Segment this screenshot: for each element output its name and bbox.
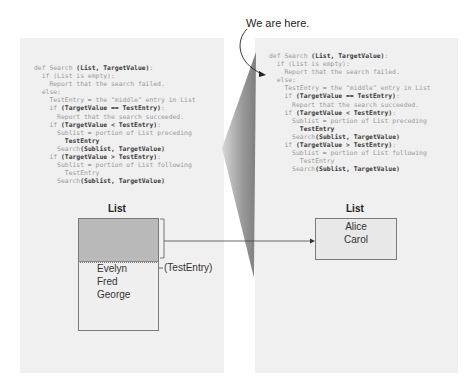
zoom-wedge [222, 52, 256, 278]
left-list-title: List [108, 203, 126, 214]
right-list-items: Alice Carol [316, 220, 396, 246]
bracket [160, 219, 164, 258]
test-entry-label: (TestEntry) [164, 262, 212, 273]
searched-region [79, 219, 158, 262]
list-item: Fred [97, 275, 130, 288]
list-item: George [97, 288, 130, 301]
right-list-title: List [346, 203, 364, 214]
list-item: Carol [316, 233, 396, 246]
list-item: Alice [316, 220, 396, 233]
diagram-graphics [0, 0, 474, 387]
list-item: Evelyn [97, 262, 130, 275]
left-list-items: Evelyn Fred George [97, 262, 130, 301]
we-are-here-arrow [240, 29, 262, 74]
arrow-head-icon [259, 71, 266, 77]
right-list-box: Alice Carol [315, 218, 397, 260]
annotation-label: We are here. [246, 17, 309, 29]
